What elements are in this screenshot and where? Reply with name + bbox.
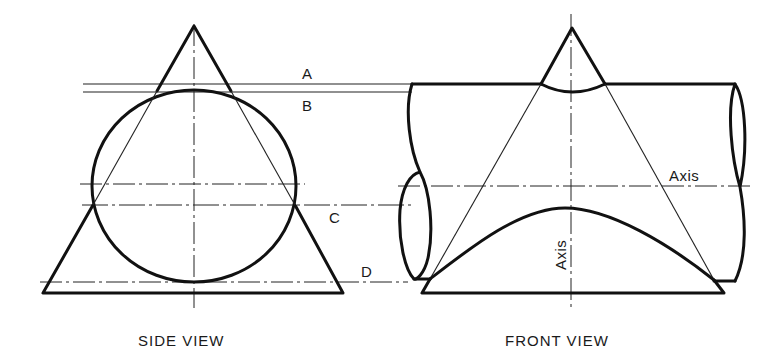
cone-left-thin <box>93 91 157 205</box>
label-c: C <box>329 209 340 226</box>
cone-right-thin <box>231 91 295 205</box>
left-break-line <box>400 84 431 279</box>
right-break-line <box>731 84 745 281</box>
top-intersection-curve <box>541 84 605 92</box>
front-cone-left-thin <box>430 84 541 279</box>
front-cone-apex <box>541 28 605 84</box>
label-d: D <box>361 263 372 280</box>
cone-lower-left <box>43 205 343 293</box>
label-a: A <box>302 65 312 82</box>
front-view-caption: FRONT VIEW <box>505 332 609 349</box>
label-b: B <box>302 97 312 114</box>
side-view: A B C D SIDE VIEW <box>40 24 412 349</box>
front-view: Axis Axis FRONT VIEW <box>398 14 750 349</box>
horizontal-axis-label: Axis <box>669 167 699 184</box>
bottom-intersection-curve <box>430 208 714 280</box>
orthographic-drawing: A B C D SIDE VIEW Axis Axis <box>0 0 775 364</box>
front-cone-base <box>422 279 724 293</box>
side-view-caption: SIDE VIEW <box>138 332 225 349</box>
vertical-axis-label: Axis <box>552 240 569 270</box>
